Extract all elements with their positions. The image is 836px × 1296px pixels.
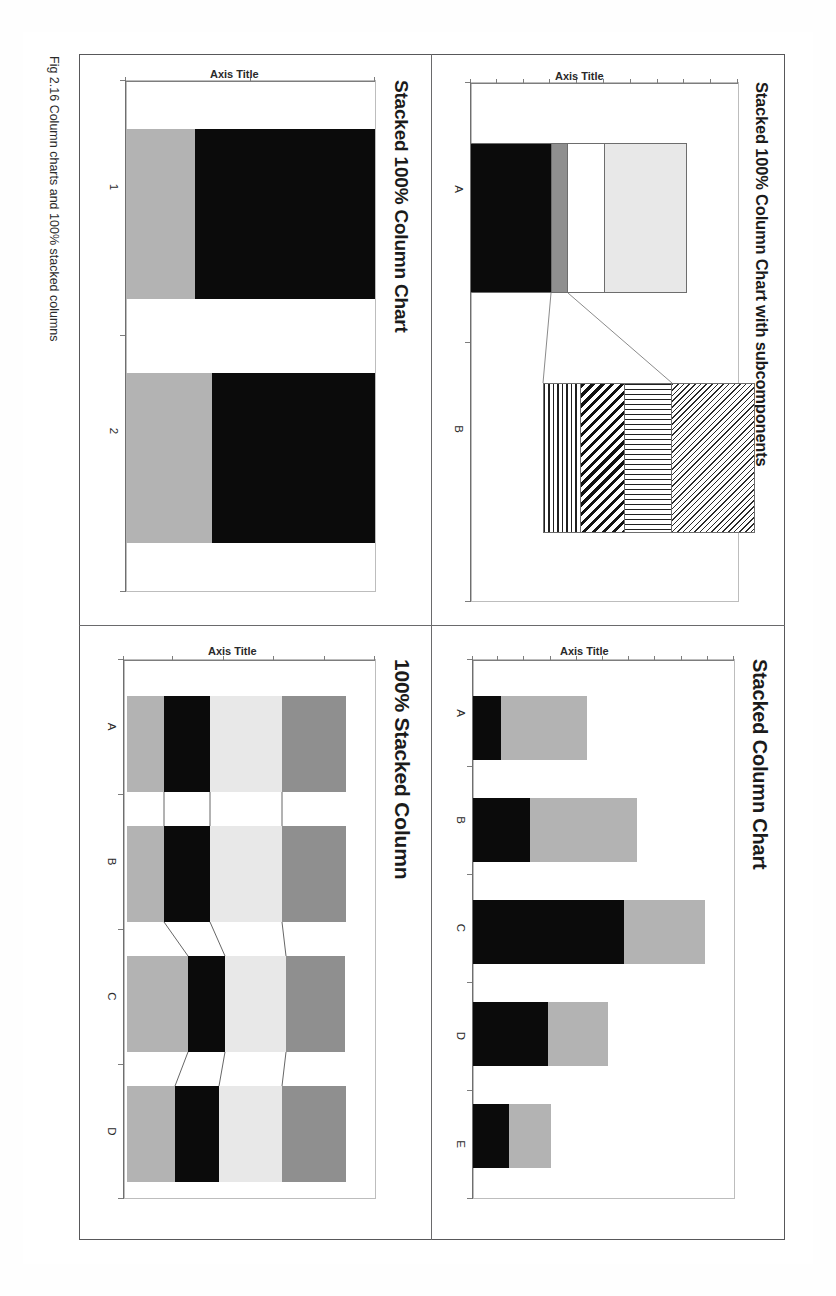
axis-title-stacked-column-chart: Axis Title: [560, 645, 609, 657]
bar-segment-a-series2: [501, 696, 587, 760]
category-label-d: D: [106, 1064, 118, 1199]
bar-segment-b-sub4: [671, 383, 755, 533]
category-label-a: A: [455, 659, 467, 767]
category-label-c: C: [455, 874, 467, 982]
axis-title-stacked-100-column-chart: Axis Title: [210, 68, 259, 80]
category-label-b: B: [453, 389, 465, 469]
category-axis-stacked-100-subcomponents: [470, 82, 471, 602]
category-label-c: C: [106, 929, 118, 1064]
category-label-2: 2: [108, 391, 120, 471]
bar-segment-2-series1: [125, 373, 212, 543]
bar-segment-1-series2: [195, 129, 375, 299]
rotated-figure-wrapper: Stacked 100% Column Chart with subcompon…: [0, 0, 836, 1296]
category-axis-stacked-column-chart: [472, 659, 473, 1199]
category-label-a: A: [106, 659, 118, 794]
scanned-page: Stacked 100% Column Chart with subcompon…: [0, 0, 836, 1296]
bar-segment-e-series1: [472, 1104, 509, 1168]
category-label-1: 1: [108, 147, 120, 227]
bar-segment-d-series2: [548, 1002, 608, 1066]
bar-segment-b-series1: [472, 798, 530, 862]
category-label-b: B: [106, 794, 118, 929]
category-label-a: A: [453, 149, 465, 229]
plot-area-stacked-column-chart: [473, 659, 735, 1199]
bar-segment-b-sub2: [580, 383, 625, 533]
bar-segment-d-series1: [472, 1002, 548, 1066]
chart-panel-stacked-100-subcomponents: Stacked 100% Column Chart with subcompon…: [432, 54, 785, 625]
figure-caption: Fig 2.16 Column charts and 100% stacked …: [47, 56, 61, 342]
chart-panel-stacked-column-chart: Stacked Column Chart: [432, 625, 785, 1240]
bar-segment-1-series1: [125, 129, 195, 299]
category-label-d: D: [455, 982, 467, 1090]
category-axis-hundred-percent-stacked-column: [123, 659, 124, 1199]
plot-area-stacked-100-column-chart: [126, 80, 376, 592]
bar-segment-b-series2: [530, 798, 637, 862]
bar-segment-b-sub3: [624, 383, 672, 533]
chart-title-stacked-100-column-chart: Stacked 100% Column Chart: [390, 80, 412, 333]
axis-title-stacked-100-subcomponents: Axis Title: [555, 70, 604, 82]
category-label-b: B: [455, 766, 467, 874]
chart-panel-hundred-percent-stacked-column: 100% Stacked Column: [79, 625, 432, 1240]
bar-segment-c-series1: [472, 900, 624, 964]
category-axis-stacked-100-column-chart: [125, 80, 126, 592]
series-connector-lines: [123, 660, 375, 1200]
bar-segment-b-sub1: [543, 383, 581, 533]
value-axis-stacked-100-column-chart: [125, 81, 375, 82]
figure-stage: Stacked 100% Column Chart with subcompon…: [23, 32, 813, 1264]
plot-area-stacked-100-subcomponents: [471, 82, 739, 602]
chart-title-stacked-column-chart: Stacked Column Chart: [748, 659, 771, 869]
bar-segment-c-series2: [624, 900, 705, 964]
chart-title-hundred-percent-stacked-column: 100% Stacked Column: [390, 659, 414, 879]
axis-title-hundred-percent-stacked-column: Axis Title: [208, 645, 257, 657]
chart-panel-stacked-100-column-chart: Stacked 100% Column Chart: [79, 54, 432, 625]
plot-area-hundred-percent-stacked-column: [124, 659, 376, 1199]
category-label-e: E: [455, 1090, 467, 1198]
bar-segment-a-series1: [472, 696, 501, 760]
bar-segment-e-series2: [509, 1104, 551, 1168]
value-axis-stacked-column-chart: [472, 660, 734, 661]
bar-segment-2-series2: [212, 373, 375, 543]
